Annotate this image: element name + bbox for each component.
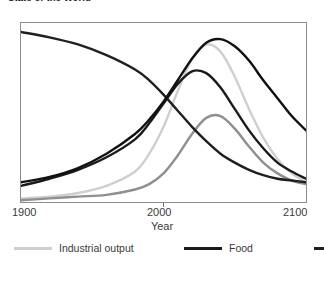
chart-figure: State of the World 1900 2000 2100 Year I… bbox=[0, 0, 324, 297]
legend-item-resources: Resources bbox=[314, 240, 324, 257]
series-line-resources bbox=[21, 32, 306, 182]
plot-area bbox=[20, 22, 307, 203]
x-tick-label-1900: 1900 bbox=[12, 206, 36, 218]
series-line-population bbox=[21, 39, 306, 182]
legend-item-industrial-output: Industrial output bbox=[14, 240, 184, 257]
legend-swatch-industrial-output bbox=[14, 247, 52, 250]
chart-legend: Industrial output Food Resources Populat… bbox=[14, 240, 314, 257]
chart-title: State of the World bbox=[8, 0, 91, 3]
x-tick-label-2100: 2100 bbox=[283, 206, 307, 218]
legend-swatch-resources bbox=[314, 247, 324, 250]
x-axis-label: Year bbox=[0, 220, 324, 232]
x-tick-label-2000: 2000 bbox=[147, 206, 171, 218]
legend-label-food: Food bbox=[229, 243, 253, 254]
legend-swatch-food bbox=[184, 247, 222, 250]
legend-label-industrial-output: Industrial output bbox=[59, 243, 134, 254]
legend-item-food: Food bbox=[184, 240, 314, 257]
plot-lines bbox=[21, 23, 306, 202]
